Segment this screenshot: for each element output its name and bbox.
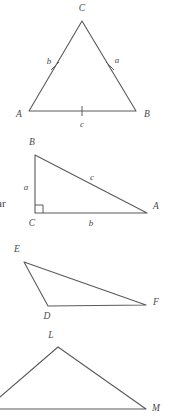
vertex-label-b-right: B: [29, 137, 35, 147]
figure-triangle-lm-cropped: L M: [0, 330, 161, 413]
side-label-b: b: [47, 56, 52, 66]
vertex-label-c: C: [79, 3, 86, 13]
figure-triangle-abc-right: B C A a c b: [24, 137, 159, 228]
figure-page: C A B b a c B C A a c b E D F L M: [0, 0, 169, 420]
triangles-figure: C A B b a c B C A a c b E D F L M: [0, 0, 169, 420]
vertex-label-l: L: [47, 330, 53, 340]
side-label-c-right: c: [90, 172, 94, 182]
side-label-b-right: b: [89, 218, 94, 228]
vertex-label-c-right: C: [29, 218, 36, 228]
vertex-label-e: E: [13, 244, 20, 254]
right-triangle-outline: [35, 155, 147, 213]
figure-triangle-def: E D F: [13, 244, 159, 321]
vertex-label-m: M: [151, 403, 161, 413]
figure-triangle-abc-isosceles: C A B b a c: [15, 3, 150, 129]
vertex-label-a: A: [15, 109, 22, 119]
side-label-a: a: [115, 55, 120, 65]
tick-mark-cb: [106, 62, 114, 70]
right-angle-marker: [35, 205, 43, 213]
vertex-label-b: B: [144, 109, 150, 119]
triangle-def-outline: [24, 262, 146, 306]
vertex-label-d: D: [43, 311, 51, 321]
tick-mark-ca: [51, 62, 59, 70]
vertex-label-a-right: A: [152, 201, 159, 211]
triangle-lm-outline: [0, 347, 146, 409]
triangle-abc-outline: [29, 21, 136, 111]
side-label-a-right: a: [24, 182, 29, 192]
vertex-label-f: F: [152, 297, 159, 307]
side-label-c: c: [80, 119, 84, 129]
cropped-margin-text: ar: [0, 197, 6, 209]
